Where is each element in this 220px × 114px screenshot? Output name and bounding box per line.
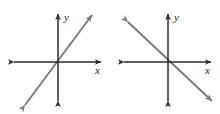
- left-x-axis-label: x: [94, 64, 100, 76]
- figure-two-line-graphs: y x y x: [0, 0, 220, 114]
- graphs-canvas: y x y x: [0, 0, 220, 114]
- graph-negative-slope: y x: [124, 11, 212, 101]
- left-y-axis-label: y: [63, 11, 69, 23]
- right-y-axis-label: y: [173, 11, 179, 23]
- right-x-axis-label: x: [204, 64, 210, 76]
- graph-positive-slope: y x: [14, 11, 101, 105]
